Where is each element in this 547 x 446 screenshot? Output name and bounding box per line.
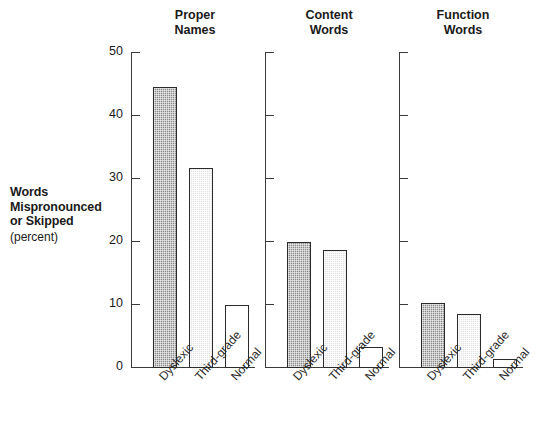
panel-title-function-words: Function Words bbox=[401, 8, 525, 38]
bar-chart-figure: Words Mispronounced or Skipped (percent)… bbox=[0, 0, 547, 446]
bars-area bbox=[399, 52, 523, 368]
panel-title-line-2: Words bbox=[401, 23, 525, 38]
panel-title-line-1: Function bbox=[401, 8, 525, 23]
panel-function-words: Function Words DyslexicThird-gradeNormal bbox=[0, 0, 547, 446]
